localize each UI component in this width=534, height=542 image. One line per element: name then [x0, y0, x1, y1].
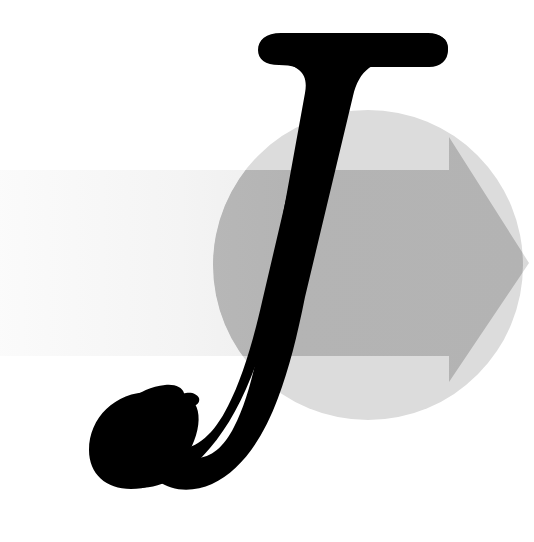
artboard: [0, 0, 534, 542]
logo-artwork: [0, 0, 534, 542]
